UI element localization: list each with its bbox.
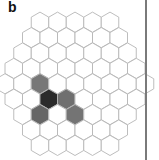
hex-cell — [66, 135, 84, 155]
hex-cell — [49, 135, 67, 155]
hex-cell — [101, 135, 119, 155]
hex-cell — [31, 135, 49, 155]
panel-divider-line — [145, 0, 147, 160]
hex-grid — [0, 0, 159, 160]
hex-cell — [84, 135, 102, 155]
